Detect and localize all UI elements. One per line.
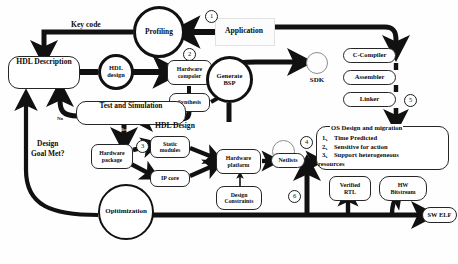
node-optimization-label: Opitimization xyxy=(105,208,147,215)
edge-label-design-goal-met: Design Goal Met? xyxy=(31,139,64,159)
edge-label-design-goal-met-line2: Goal Met? xyxy=(31,149,64,159)
node-static-modules[interactable]: Static modules xyxy=(150,136,190,158)
badge-1: 1 xyxy=(205,10,218,23)
edge-label-design-goal-met-line1: Design xyxy=(31,139,64,149)
badge-6: 6 xyxy=(288,190,301,203)
badge-4-text: 4 xyxy=(305,138,308,145)
diagram-canvas: Application Profiling HDL Description HD… xyxy=(0,0,458,264)
os-design-item-4: resources xyxy=(318,160,450,169)
node-hw-bitstream-label-line2: Bitstream xyxy=(390,189,415,195)
node-verified-rtl[interactable]: Verified RTL xyxy=(329,176,371,201)
node-hdl-design[interactable]: HDL design xyxy=(98,54,134,90)
os-design-item-1: 1、 Time Predicted xyxy=(322,134,450,143)
node-hardware-platform-label-line2: platform xyxy=(228,162,250,168)
node-hdl-description-label: HDL Description xyxy=(16,58,71,66)
node-hdl-description[interactable]: HDL Description xyxy=(8,56,80,89)
node-os-design-title-text: OS Design and migration xyxy=(331,124,402,131)
edge-hardware-package-to-ip-core xyxy=(131,164,152,175)
edge-label-key-code: Key code xyxy=(71,20,101,29)
badge-2: 2 xyxy=(183,48,196,61)
node-generate-bsp-label-line2: BSP xyxy=(223,80,235,87)
edge-static-modules-to-hardware-platform xyxy=(190,148,215,158)
os-design-item-3: 3、 Support heterogeneous xyxy=(322,151,450,160)
node-hdl-design-label-line2: design xyxy=(107,72,124,79)
node-hardware-package-label-line2: package xyxy=(102,157,122,163)
node-c-compiler[interactable]: C-Compiler xyxy=(343,48,396,63)
node-test-and-simulation-label: Test and Simulation xyxy=(100,102,163,110)
node-sdk-text: SDK xyxy=(310,76,324,84)
node-verified-rtl-label-line2: RTL xyxy=(344,189,356,195)
badge-6-text: 6 xyxy=(293,192,296,199)
node-sdk-circle xyxy=(306,52,328,74)
node-generate-bsp[interactable]: Generate BSP xyxy=(206,56,253,103)
edge-label-key-code-text: Key code xyxy=(71,20,101,29)
node-sw-elf[interactable]: SW ELF xyxy=(422,207,457,223)
badge-2-text: 2 xyxy=(188,50,191,57)
node-sw-elf-label: SW ELF xyxy=(428,212,452,219)
node-os-design-items: 1、 Time Predicted 2、 Sensitive for actio… xyxy=(322,134,450,168)
edge-label-yes-text: Yes xyxy=(120,127,127,132)
node-hardware-platform[interactable]: Hardware platform xyxy=(216,149,261,174)
node-netlists[interactable]: Netlists xyxy=(271,153,305,168)
node-optimization[interactable]: Opitimization xyxy=(98,184,154,240)
node-hardware-package[interactable]: Hardware package xyxy=(91,144,133,169)
badge-3: 3 xyxy=(136,140,149,153)
node-design-constraints-label-line2: Constraints xyxy=(225,198,254,204)
node-sdk-label: SDK xyxy=(306,76,328,84)
node-design-constraints[interactable]: Design Constraints xyxy=(216,186,262,210)
badge-1-text: 1 xyxy=(210,12,213,19)
node-ip-core[interactable]: IP core xyxy=(150,170,190,187)
node-c-compiler-label: C-Compiler xyxy=(353,52,387,59)
node-hardware-compiler-label-line2: compoler xyxy=(178,73,201,79)
edge-label-no-text: No xyxy=(57,116,63,121)
node-application-label: Application xyxy=(225,27,263,35)
node-netlists-label: Netlists xyxy=(279,157,298,163)
node-profiling[interactable]: Profiling xyxy=(133,6,185,58)
edge-label-hdl-design-text: HDL Design xyxy=(155,121,195,130)
edge-ip-core-to-hardware-platform xyxy=(190,165,215,176)
node-ip-core-label: IP core xyxy=(161,175,179,181)
node-application[interactable]: Application xyxy=(213,24,275,38)
node-assembler[interactable]: Assembler xyxy=(343,70,396,85)
node-static-modules-label-line2: modules xyxy=(160,147,181,153)
node-assembler-label: Assembler xyxy=(355,74,385,81)
node-hw-bitstream[interactable]: HW Bitstream xyxy=(379,176,427,201)
badge-5: 5 xyxy=(404,94,417,107)
edge-application-to-c-compiler xyxy=(272,27,396,48)
badge-3-text: 3 xyxy=(141,142,144,149)
edge-profiling-to-hdl-description xyxy=(44,32,133,53)
badge-4: 4 xyxy=(300,136,313,149)
node-linker[interactable]: Linker xyxy=(343,92,396,107)
badge-5-text: 5 xyxy=(409,96,412,103)
node-linker-label: Linker xyxy=(360,96,379,103)
edge-label-yes: Yes xyxy=(120,127,127,132)
edge-label-no: No xyxy=(57,116,63,121)
node-profiling-label: Profiling xyxy=(145,28,173,36)
edge-label-hdl-design: HDL Design xyxy=(155,121,195,130)
os-design-item-2: 2、 Sensitive for action xyxy=(322,143,450,152)
node-os-design-title: OS Design and migration xyxy=(330,124,403,131)
